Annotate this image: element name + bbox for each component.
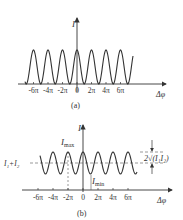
mean-label: I₁+I₂ <box>3 159 20 168</box>
amplitude-label: 2√(I₁I₂) <box>144 154 169 163</box>
tick-label: -4π <box>48 193 58 202</box>
tick-label: 0 <box>81 193 85 202</box>
tick-label: -6π <box>28 86 38 95</box>
min-label: Imin <box>91 176 104 187</box>
plot-b: -6π-4π-2π02π4π6π 2√(I₁I₂) I₁+I₂ Imax Imi… <box>3 123 172 218</box>
x-label-b: Δφ <box>156 196 167 205</box>
y-label-a: I <box>71 19 76 29</box>
caption-a: (a) <box>71 101 80 110</box>
tick-label: 0 <box>75 86 79 95</box>
tick-label: -2π <box>57 86 67 95</box>
tick-label: 6π <box>117 86 125 95</box>
tick-label: 2π <box>88 86 96 95</box>
y-label-b: I <box>77 123 82 133</box>
intensity-curve-a <box>25 50 133 84</box>
x-label-a: Δφ <box>155 90 166 99</box>
plot-a: -6π-4π-2π02π4π6π I Δφ (a) <box>18 18 166 110</box>
tick-label: 4π <box>102 86 110 95</box>
caption-b: (b) <box>77 209 87 218</box>
tick-label: 4π <box>109 193 117 202</box>
tick-label: -4π <box>43 86 53 95</box>
tick-label: -2π <box>63 193 73 202</box>
tick-label: -6π <box>33 193 43 202</box>
tick-label: 6π <box>124 193 132 202</box>
interference-figure: -6π-4π-2π02π4π6π I Δφ (a) -6π-4π-2π02π4π… <box>0 0 183 220</box>
tick-label: 2π <box>94 193 102 202</box>
max-label: Imax <box>60 137 74 148</box>
